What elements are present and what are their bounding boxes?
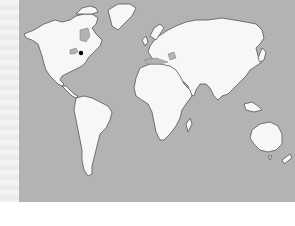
greenland — [108, 4, 136, 30]
south-america — [74, 96, 112, 176]
left-margin — [0, 0, 19, 202]
british-isles — [142, 36, 148, 46]
north-america — [24, 14, 102, 86]
new-zealand — [282, 154, 292, 164]
japan — [258, 48, 266, 62]
australia — [250, 122, 282, 152]
arctic-islands — [76, 6, 98, 14]
location-marker[interactable] — [79, 51, 83, 55]
bottom-margin — [0, 202, 295, 226]
southeast-asia-islands — [244, 102, 262, 112]
tasmania — [268, 156, 272, 160]
central-america — [62, 86, 78, 98]
world-map[interactable] — [19, 0, 295, 202]
madagascar — [186, 118, 192, 132]
